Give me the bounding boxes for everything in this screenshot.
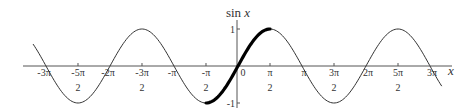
- y-tick: 1: [230, 24, 240, 35]
- y-tick-label: 1: [230, 24, 235, 35]
- x-tick-denominator: 2: [139, 82, 144, 93]
- x-tick-label: 3π: [329, 67, 339, 78]
- x-tick-label: π: [267, 67, 272, 78]
- x-tick-label: 5π: [393, 67, 403, 78]
- x-tick-label: -3π: [37, 67, 50, 78]
- x-tick: -3π2: [135, 63, 148, 93]
- x-tick-label: -5π: [71, 67, 84, 78]
- x-tick-label: -π: [202, 67, 210, 78]
- x-tick-denominator: 2: [396, 82, 401, 93]
- x-tick: 3π2: [329, 63, 339, 93]
- x-tick: -π2: [202, 63, 210, 93]
- y-axis-title: sin x: [226, 5, 250, 20]
- sine-chart: -3π-5π2-2π-3π2-π-π20π2π3π22π5π23π 1-1 si…: [0, 0, 476, 111]
- x-tick-denominator: 2: [268, 82, 273, 93]
- chart-svg: -3π-5π2-2π-3π2-π-π20π2π3π22π5π23π 1-1 si…: [0, 0, 476, 111]
- x-tick: 5π2: [393, 63, 403, 93]
- x-tick: -3π: [37, 67, 50, 78]
- x-tick: 0: [241, 67, 246, 78]
- x-tick-label: -3π: [135, 67, 148, 78]
- y-tick: -1: [227, 98, 240, 109]
- x-tick: -5π2: [71, 63, 84, 93]
- y-tick-label: -1: [227, 98, 235, 109]
- x-tick-label: 0: [241, 67, 246, 78]
- x-tick-denominator: 2: [75, 82, 80, 93]
- x-tick-denominator: 2: [203, 82, 208, 93]
- x-tick-denominator: 2: [332, 82, 337, 93]
- x-axis-title: x: [447, 63, 454, 78]
- x-tick: π2: [267, 63, 272, 93]
